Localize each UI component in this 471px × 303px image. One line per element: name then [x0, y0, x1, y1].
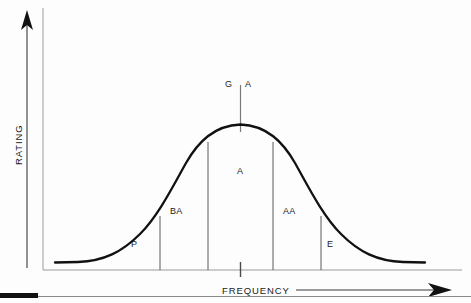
- bell-curve-diagram: [0, 0, 471, 303]
- region-label-p: P: [131, 240, 137, 249]
- region-label-ba: BA: [170, 207, 183, 216]
- x-axis-arrow-icon: [296, 283, 452, 297]
- peak-label-g: G: [225, 80, 232, 89]
- page-bottom-rule: [0, 296, 471, 297]
- x-axis-label: FREQUENCY: [222, 286, 290, 296]
- peak-label-a: A: [245, 80, 251, 89]
- figure-canvas: RATING FREQUENCY G A A BA AA P E: [0, 0, 471, 303]
- region-label-aa: AA: [283, 207, 296, 216]
- page-bottom-marker-bar: [0, 293, 38, 298]
- region-label-a: A: [237, 167, 243, 176]
- bell-curve-path: [55, 125, 425, 263]
- region-label-e: E: [327, 240, 333, 249]
- y-axis-label: RATING: [14, 124, 24, 165]
